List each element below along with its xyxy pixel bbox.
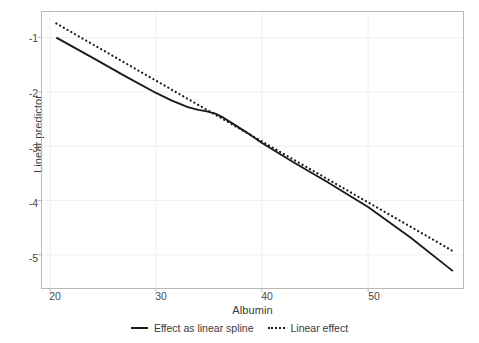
axis-ticks [38, 38, 369, 293]
legend-entry-spline: Effect as linear spline [131, 322, 254, 334]
plot-frame [42, 12, 464, 289]
chart-figure: Linear predictor -1 -2 -3 -4 -5 20 30 40… [0, 0, 479, 343]
plot-area [0, 0, 479, 343]
legend-label: Effect as linear spline [154, 322, 254, 334]
gridlines [42, 12, 464, 289]
chart-legend: Effect as linear spline Linear effect [0, 322, 479, 334]
legend-label: Linear effect [291, 322, 349, 334]
legend-entry-linear: Linear effect [268, 322, 349, 334]
data-series-layer [56, 23, 453, 271]
legend-line-dotted-icon [268, 327, 285, 329]
series-line-1 [56, 38, 453, 272]
series-line-2 [56, 23, 453, 251]
legend-line-solid-icon [131, 327, 148, 329]
